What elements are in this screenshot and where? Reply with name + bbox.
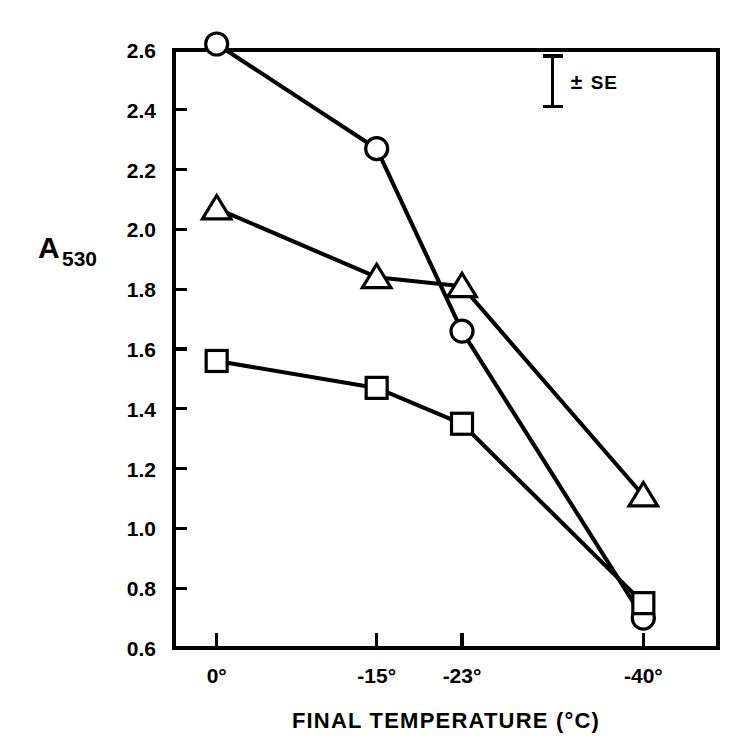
series-line-square bbox=[217, 361, 644, 603]
y-axis-ticks: 2.62.42.22.01.81.61.41.21.00.80.6 bbox=[127, 39, 187, 660]
figure-container: 2.62.42.22.01.81.61.41.21.00.80.6A5300°-… bbox=[0, 0, 755, 754]
y-axis-tick-label: 1.0 bbox=[127, 517, 156, 540]
y-axis-tick-label: 0.6 bbox=[127, 637, 156, 660]
x-axis-tick-label: -40° bbox=[624, 664, 663, 687]
absorbance-vs-final-temperature-chart: 2.62.42.22.01.81.61.41.21.00.80.6A5300°-… bbox=[0, 0, 755, 754]
y-axis-tick-label: 2.4 bbox=[127, 99, 157, 122]
y-axis-tick-label: 1.2 bbox=[127, 458, 156, 481]
data-point-circle[interactable] bbox=[206, 33, 228, 55]
x-axis-tick-label: -23° bbox=[443, 664, 482, 687]
data-point-circle[interactable] bbox=[366, 138, 388, 160]
y-axis-tick-label: 2.6 bbox=[127, 39, 156, 62]
y-axis-tick-label: 1.4 bbox=[127, 398, 157, 421]
standard-error-annotation: ±SE bbox=[543, 56, 618, 107]
x-axis-tick-label: -15° bbox=[357, 664, 396, 687]
y-axis-title-subscript: 530 bbox=[62, 247, 97, 270]
y-axis-tick-label: 1.6 bbox=[127, 338, 156, 361]
standard-error-label: SE bbox=[591, 72, 618, 93]
data-point-square[interactable] bbox=[366, 377, 387, 398]
x-axis-tick-label: 0° bbox=[207, 664, 227, 687]
x-axis-ticks: 0°-15°-23°-40° bbox=[207, 633, 663, 687]
y-axis-tick-label: 1.8 bbox=[127, 278, 157, 301]
plus-minus-symbol: ± bbox=[571, 70, 583, 93]
series-markers bbox=[202, 33, 657, 629]
data-point-square[interactable] bbox=[633, 593, 654, 614]
y-axis-tick-label: 0.8 bbox=[127, 577, 157, 600]
x-axis-title: FINAL TEMPERATURE (°C) bbox=[292, 708, 600, 733]
y-axis-tick-label: 2.2 bbox=[127, 159, 156, 182]
series-lines bbox=[217, 44, 644, 618]
plot-frame bbox=[174, 50, 718, 648]
y-axis-title: A530 bbox=[38, 231, 97, 270]
y-axis-title-symbol: A bbox=[38, 231, 60, 264]
data-point-triangle[interactable] bbox=[362, 264, 391, 287]
data-point-circle[interactable] bbox=[451, 320, 473, 342]
series-line-triangle bbox=[217, 209, 644, 496]
series-line-circle bbox=[217, 44, 644, 618]
data-point-square[interactable] bbox=[452, 413, 473, 434]
data-point-square[interactable] bbox=[206, 350, 227, 371]
data-point-triangle[interactable] bbox=[202, 195, 231, 218]
y-axis-tick-label: 2.0 bbox=[127, 218, 156, 241]
